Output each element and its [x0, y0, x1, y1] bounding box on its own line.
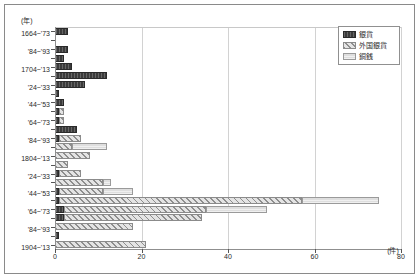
x-axis-label: 20 — [138, 253, 146, 260]
bar-segment-銀貨 — [55, 99, 64, 106]
y-axis-label: 1664~'73 — [21, 30, 50, 37]
bar-segment-外国銀貨 — [55, 223, 133, 230]
y-axis-label: '84~'93 — [28, 48, 50, 55]
bar-segment-銀貨 — [55, 206, 64, 213]
y-axis-unit-label: (年) — [21, 15, 33, 25]
gridline-60 — [315, 27, 316, 249]
bar-segment-銀貨 — [55, 72, 107, 79]
chart-frame: (年) 1664~'73'84~'931704~'13'24~'33'44~'5… — [4, 4, 415, 274]
bar-segment-外国銀貨 — [55, 179, 103, 186]
gridline-40 — [228, 27, 229, 249]
bar-segment-銀貨 — [55, 126, 77, 133]
bar-segment-銅銭 — [72, 143, 107, 150]
bar-segment-銀貨 — [55, 46, 68, 53]
bar-segment-銅銭 — [302, 197, 380, 204]
y-axis-label: '64~'73 — [28, 208, 50, 215]
bar-segment-銅銭 — [206, 206, 267, 213]
legend-item-外国銀貨: 外国銀貨 — [343, 41, 395, 50]
y-axis-label: 1904~'13 — [21, 244, 50, 251]
bar-segment-外国銀貨 — [55, 241, 146, 248]
bar-segment-銀貨 — [55, 28, 68, 35]
legend-label: 銅銭 — [359, 53, 373, 60]
bar-segment-外国銀貨 — [55, 161, 68, 168]
x-axis-label: 40 — [224, 253, 232, 260]
bar-segment-外国銀貨 — [59, 170, 81, 177]
y-axis-label: '84~'93 — [28, 137, 50, 144]
bar-segment-外国銀貨 — [64, 206, 207, 213]
legend-swatch-icon — [343, 53, 356, 60]
x-axis-unit-label: (件) — [387, 245, 399, 255]
bar-segment-銅銭 — [103, 188, 133, 195]
bar-segment-外国銀貨 — [59, 108, 63, 115]
y-axis-label: 1704~'13 — [21, 66, 50, 73]
legend-label: 外国銀貨 — [359, 42, 387, 49]
legend-item-銅銭: 銅銭 — [343, 52, 395, 61]
y-axis-label: '24~'33 — [28, 173, 50, 180]
y-axis-label: '84~'93 — [28, 226, 50, 233]
bar-segment-銀貨 — [55, 55, 64, 62]
bar-segment-外国銀貨 — [55, 143, 72, 150]
bar-segment-外国銀貨 — [59, 117, 63, 124]
y-axis-label: 1804~'13 — [21, 155, 50, 162]
bar-segment-外国銀貨 — [55, 152, 90, 159]
bar-segment-外国銀貨 — [59, 188, 102, 195]
y-axis-label: '24~'33 — [28, 84, 50, 91]
gridline-80 — [401, 27, 402, 249]
y-axis-label: '64~'73 — [28, 119, 50, 126]
y-axis-label: '44~'53 — [28, 101, 50, 108]
y-axis-line — [55, 27, 56, 249]
x-axis-label: 60 — [311, 253, 319, 260]
bar-segment-銀貨 — [55, 81, 85, 88]
bar-segment-銀貨 — [55, 214, 64, 221]
y-axis-label: '44~'53 — [28, 190, 50, 197]
bar-segment-外国銀貨 — [64, 214, 202, 221]
x-axis-label: 0 — [53, 253, 57, 260]
bar-segment-銅銭 — [103, 179, 112, 186]
legend-swatch-icon — [343, 42, 356, 49]
bar-segment-外国銀貨 — [59, 197, 301, 204]
chart-legend: 銀貨外国銀貨銅銭 — [338, 26, 400, 65]
bar-segment-外国銀貨 — [59, 135, 81, 142]
legend-swatch-icon — [343, 31, 356, 38]
legend-item-銀貨: 銀貨 — [343, 30, 395, 39]
legend-label: 銀貨 — [359, 31, 373, 38]
bar-segment-銀貨 — [55, 63, 72, 70]
